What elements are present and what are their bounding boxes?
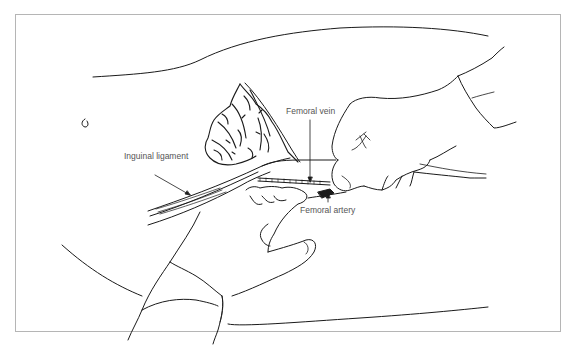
leader-lines xyxy=(155,120,330,202)
label-inguinal-ligament: Inguinal ligament xyxy=(124,152,188,161)
femoral-vein-vessel xyxy=(258,178,330,185)
body-outline-top xyxy=(93,27,488,77)
right-hand xyxy=(332,47,516,191)
umbilicus-mark xyxy=(82,119,88,127)
left-hand xyxy=(128,187,316,345)
femoral-artery-vessel xyxy=(318,189,334,198)
inguinal-ligament-arrow xyxy=(155,175,190,195)
lymph-node-cluster xyxy=(205,84,298,165)
label-femoral-artery: Femoral artery xyxy=(300,206,355,215)
body-outline-bottom-right xyxy=(228,307,488,325)
groin-illustration xyxy=(0,0,574,346)
label-femoral-vein: Femoral vein xyxy=(286,107,335,116)
body-outline-bottom-left xyxy=(62,245,142,296)
